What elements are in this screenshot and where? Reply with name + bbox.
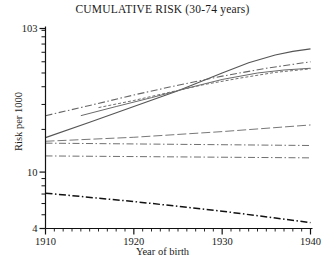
series-line-1 — [46, 49, 311, 138]
series-line-3 — [81, 68, 311, 115]
x-tick-label: 1940 — [300, 236, 321, 247]
series-line-7 — [46, 156, 311, 158]
x-tick-label: 1930 — [212, 236, 233, 247]
chart-container: CUMULATIVE RISK (30-74 years) Risk per 1… — [0, 0, 325, 263]
series-line-4 — [99, 69, 311, 108]
axes-group — [40, 27, 313, 235]
x-tick-label: 1910 — [35, 236, 56, 247]
series-line-2 — [46, 62, 311, 116]
series-group — [46, 49, 311, 223]
series-line-8 — [46, 193, 311, 222]
y-tick-label: 4 — [32, 223, 38, 234]
series-line-5 — [46, 125, 311, 141]
y-tick-label: 103 — [22, 23, 38, 34]
plot-area: 4101031910192019301940 — [0, 0, 325, 263]
y-tick-label: 10 — [27, 167, 38, 178]
x-tick-label: 1920 — [123, 236, 144, 247]
series-line-6 — [46, 143, 311, 145]
